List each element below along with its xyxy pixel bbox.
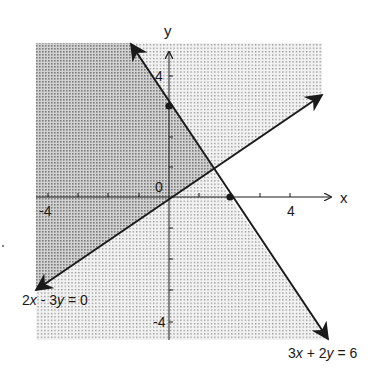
inequality-graph: y x 0 -4 4 4 -4 2x - 3y = 0 3x + 2y = 6 bbox=[0, 0, 373, 382]
y-axis-label: y bbox=[164, 22, 172, 39]
x-tick-label-neg4: -4 bbox=[39, 203, 52, 219]
origin-label: 0 bbox=[155, 179, 163, 195]
y-tick-label-neg4: -4 bbox=[153, 314, 166, 330]
y-tick-label-pos4: 4 bbox=[155, 68, 163, 84]
x-axis-label: x bbox=[340, 189, 348, 206]
equation-label-2x-3y: 2x - 3y = 0 bbox=[22, 292, 88, 308]
speck-dot bbox=[2, 245, 4, 247]
y-intercept-point bbox=[165, 102, 172, 109]
x-tick-label-pos4: 4 bbox=[287, 203, 295, 219]
equation-label-3x-2y: 3x + 2y = 6 bbox=[288, 345, 358, 361]
x-intercept-point bbox=[226, 193, 233, 200]
